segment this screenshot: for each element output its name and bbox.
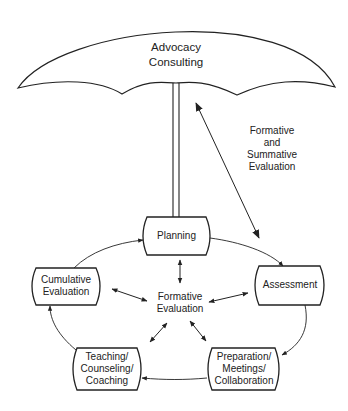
assessment-label: Assessment	[253, 279, 327, 291]
teaching-label-line2: Counseling/	[70, 363, 144, 375]
preparation-label-line1: Preparation/	[204, 351, 284, 363]
cumulative-label-line2: Evaluation	[30, 286, 102, 298]
center-label-line1: Formative	[140, 291, 220, 303]
node-teaching-counseling-coaching: Teaching/ Counseling/ Coaching	[70, 351, 144, 387]
summative-label-line4: Evaluation	[232, 161, 312, 173]
node-cumulative-evaluation: Cumulative Evaluation	[30, 274, 102, 298]
planning-label: Planning	[143, 230, 210, 242]
node-preparation-meetings-collaboration: Preparation/ Meetings/ Collaboration	[204, 351, 284, 387]
umbrella-label: Advocacy Consulting	[126, 40, 226, 70]
summative-evaluation-label: Formative and Summative Evaluation	[232, 125, 312, 173]
cumulative-label-line1: Cumulative	[30, 274, 102, 286]
node-assessment: Assessment	[253, 279, 327, 291]
umbrella-label-line2: Consulting	[126, 55, 226, 70]
center-label-line2: Evaluation	[140, 303, 220, 315]
preparation-label-line3: Collaboration	[204, 375, 284, 387]
umbrella-label-line1: Advocacy	[126, 40, 226, 55]
summative-label-line1: Formative	[232, 125, 312, 137]
preparation-label-line2: Meetings/	[204, 363, 284, 375]
node-planning: Planning	[143, 230, 210, 242]
teaching-label-line1: Teaching/	[70, 351, 144, 363]
center-formative-evaluation: Formative Evaluation	[140, 291, 220, 315]
summative-label-line2: and	[232, 137, 312, 149]
summative-label-line3: Summative	[232, 149, 312, 161]
teaching-label-line3: Coaching	[70, 375, 144, 387]
